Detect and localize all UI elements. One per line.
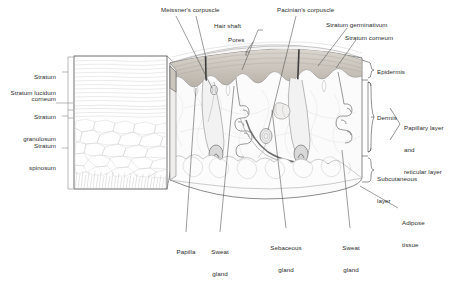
label-hair-shaft: Hair shaft <box>214 22 241 29</box>
label-sebaceous-gland-line2: gland <box>263 266 309 273</box>
label-subcutaneous-line2: layer <box>377 197 437 204</box>
label-papilla: Papilla <box>167 234 205 263</box>
label-stratum-germinativum: Stratum germinativum <box>326 21 388 28</box>
label-dermis: Dermis <box>377 114 397 121</box>
inset-label-stratum-granulosum-line1: Stratum <box>4 113 56 120</box>
label-sweat-gland-left: Sweat gland <box>202 234 238 281</box>
skin-block <box>170 24 362 199</box>
inset-label-stratum-spinosum-line1: Stratum <box>8 142 56 149</box>
label-sweat-gland-left-line1: Sweat <box>202 248 238 255</box>
label-subcutaneous-line1: Subcutaneous <box>377 175 437 182</box>
label-pacinians-corpuscle: Pacinian's corpuscle <box>277 6 334 13</box>
label-sebaceous-gland-line1: Sebaceous <box>263 244 309 251</box>
label-sweat-gland-right: Sweat gland <box>333 230 369 280</box>
label-epidermis: Epidermis <box>377 68 405 75</box>
inset-label-stratum-corneum-line1: Stratum <box>8 73 56 80</box>
label-adipose-line2: tissue <box>402 241 446 248</box>
label-sweat-gland-right-line2: gland <box>333 266 369 273</box>
inset-label-stratum-spinosum-line2: spinosum <box>8 164 56 171</box>
inset-label-stratum-lucidum: Stratum lucidum <box>2 89 56 96</box>
label-papillary-line2: and <box>404 146 460 153</box>
label-pores: Pores <box>228 36 244 43</box>
label-sweat-gland-left-line2: gland <box>202 270 238 277</box>
label-subcutaneous-layer: Subcutaneous layer <box>377 161 437 211</box>
label-papillary-line1: Papillary layer <box>404 124 460 131</box>
label-stratum-corneum-main: Stratum corneum <box>345 34 393 41</box>
label-sweat-gland-right-line1: Sweat <box>333 244 369 251</box>
label-meissners-corpuscle: Meissner's corpuscle <box>161 6 220 13</box>
label-adipose-tissue: Adipose tissue <box>402 205 446 255</box>
label-adipose-line1: Adipose <box>402 219 446 226</box>
inset-label-stratum-spinosum: Stratum spinosum <box>8 128 56 178</box>
inset-box <box>56 56 185 189</box>
label-sebaceous-gland: Sebaceous gland <box>263 230 309 280</box>
label-papilla-line1: Papilla <box>167 248 205 255</box>
